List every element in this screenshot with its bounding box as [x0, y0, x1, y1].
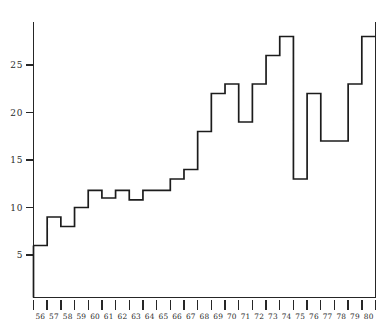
chart-canvas: 510152025 565758596061626364656667686970…: [0, 0, 388, 329]
x-tick-label-69: 69: [213, 312, 223, 321]
x-tick-label-59: 59: [76, 312, 86, 321]
x-tick-label-57: 57: [49, 312, 59, 321]
x-axis-tick-labels: 5657585960616263646566676869707172737475…: [35, 312, 373, 321]
x-tick-label-79: 79: [350, 312, 360, 321]
x-tick-label-60: 60: [90, 312, 100, 321]
x-tick-label-62: 62: [118, 312, 128, 321]
data-series-step-line: [34, 37, 376, 298]
x-tick-label-65: 65: [159, 312, 169, 321]
y-tick-label-25: 25: [10, 60, 23, 70]
chart-figure: 510152025 565758596061626364656667686970…: [0, 0, 388, 329]
y-tick-label-15: 15: [10, 155, 23, 165]
x-tick-label-63: 63: [131, 312, 141, 321]
x-tick-label-66: 66: [172, 312, 182, 321]
x-tick-label-76: 76: [309, 312, 319, 321]
y-tick-label-10: 10: [10, 203, 23, 213]
y-axis-ticks: [26, 65, 34, 255]
x-tick-label-70: 70: [227, 312, 237, 321]
x-tick-label-77: 77: [323, 312, 333, 321]
y-tick-label-5: 5: [17, 250, 23, 260]
x-tick-label-61: 61: [104, 312, 114, 321]
chart-axes: [34, 22, 376, 298]
x-tick-label-73: 73: [268, 312, 278, 321]
x-tick-label-74: 74: [282, 312, 292, 321]
x-tick-label-67: 67: [186, 312, 196, 321]
x-tick-label-56: 56: [35, 312, 45, 321]
x-tick-label-78: 78: [336, 312, 346, 321]
x-tick-label-58: 58: [63, 312, 73, 321]
x-tick-label-64: 64: [145, 312, 155, 321]
series-step-outline: [34, 37, 376, 246]
y-tick-label-20: 20: [10, 108, 23, 118]
x-tick-label-71: 71: [241, 312, 251, 321]
x-tick-label-80: 80: [364, 312, 374, 321]
x-tick-label-68: 68: [200, 312, 210, 321]
x-tick-label-75: 75: [295, 312, 305, 321]
x-tick-label-72: 72: [254, 312, 264, 321]
x-axis-ticks: [34, 300, 376, 310]
y-axis-tick-labels: 510152025: [10, 60, 23, 260]
